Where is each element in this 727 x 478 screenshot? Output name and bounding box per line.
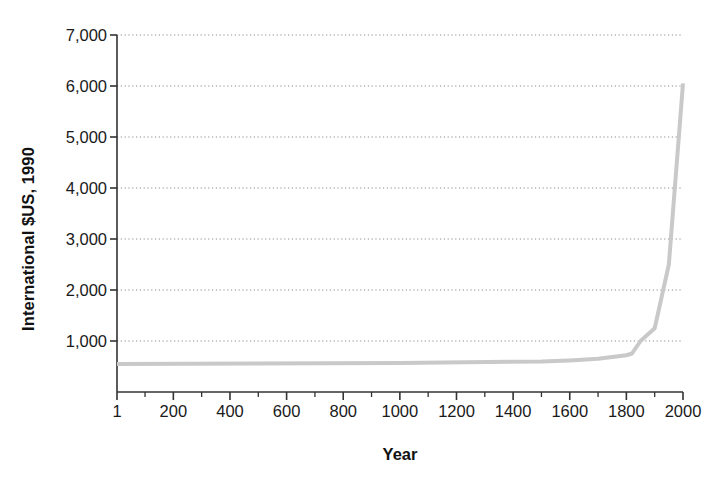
x-axis-tick-label: 800: [329, 402, 357, 421]
x-axis-ticks: [117, 392, 683, 400]
x-axis-tick-label: 200: [160, 402, 188, 421]
axis-lines: [117, 35, 683, 392]
plot-area: [117, 35, 683, 392]
x-axis-tick-label: 1800: [608, 402, 645, 421]
x-axis-tick-label: 2000: [665, 402, 702, 421]
y-axis-title: International $US, 1990: [0, 0, 56, 478]
x-axis-tick-label: 1000: [381, 402, 418, 421]
x-axis-tick-label: 1600: [551, 402, 588, 421]
x-axis-tick-label: 400: [216, 402, 244, 421]
x-axis-title: Year: [117, 445, 683, 464]
x-axis-tick-label: 1: [112, 402, 121, 421]
plot-svg: [117, 35, 683, 392]
x-axis-tick-label: 1200: [438, 402, 475, 421]
data-series-group: [117, 83, 683, 364]
chart-container: International $US, 1990 1,0002,0003,0004…: [0, 0, 727, 478]
gridlines: [117, 35, 683, 341]
x-axis-tick-label: 600: [273, 402, 301, 421]
y-axis-ticks: [110, 35, 117, 341]
x-axis-tick-label: 1400: [495, 402, 532, 421]
series-line: [117, 83, 683, 364]
